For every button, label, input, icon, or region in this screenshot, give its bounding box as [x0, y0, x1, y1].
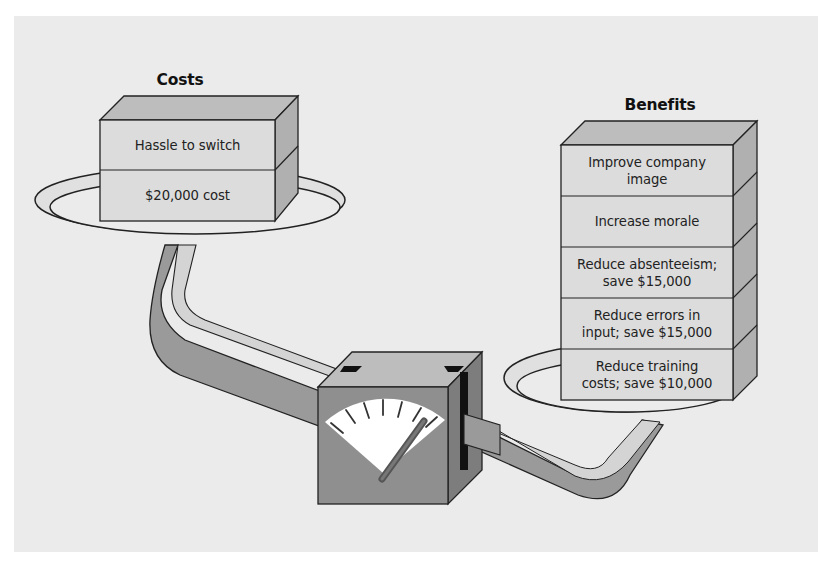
right-arm-pipe [455, 405, 663, 499]
benefit-line: costs; save $10,000 [582, 375, 713, 392]
benefit-line: Improve company [588, 154, 706, 171]
benefit-item-training: Reduce training costs; save $10,000 [561, 349, 733, 400]
benefits-title: Benefits [600, 96, 720, 114]
benefit-line: Increase morale [595, 213, 700, 230]
benefit-item-errors: Reduce errors in input; save $15,000 [561, 298, 733, 349]
cost-item-20000: $20,000 cost [100, 170, 275, 221]
benefit-line: Reduce training [596, 358, 699, 375]
cost-item-hassle: Hassle to switch [100, 120, 275, 170]
benefit-item-morale: Increase morale [561, 196, 733, 247]
benefit-line: input; save $15,000 [582, 324, 712, 341]
benefit-line: Reduce absenteeism; [577, 256, 717, 273]
benefit-line: image [627, 171, 668, 188]
benefit-line: Reduce errors in [594, 307, 700, 324]
benefit-line: save $15,000 [603, 273, 691, 290]
gauge-box [318, 352, 500, 504]
costs-title: Costs [130, 71, 230, 89]
benefit-item-absenteeism: Reduce absenteeism; save $15,000 [561, 247, 733, 298]
benefit-item-company-image: Improve company image [561, 145, 733, 196]
